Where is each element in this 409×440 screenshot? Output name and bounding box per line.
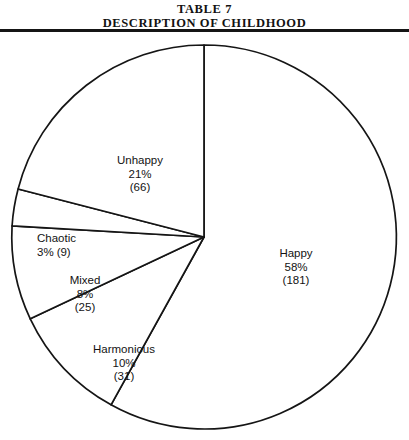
figure-title-block: TABLE 7 DESCRIPTION OF CHILDHOOD bbox=[0, 0, 409, 30]
slice-label-happy-count: (181) bbox=[256, 274, 336, 288]
slice-label-unhappy: Unhappy 21% (66) bbox=[96, 154, 184, 195]
slice-label-unhappy-name: Unhappy bbox=[96, 154, 184, 168]
slice-label-happy-name: Happy bbox=[256, 247, 336, 261]
slice-label-chaotic-name: Chaotic bbox=[37, 232, 133, 246]
slice-label-unhappy-pct: 21% bbox=[96, 168, 184, 182]
slice-label-chaotic-count: (9) bbox=[57, 246, 71, 258]
slice-label-happy-pct: 58% bbox=[256, 261, 336, 275]
slice-label-mixed-name: Mixed bbox=[42, 274, 128, 288]
slice-label-unhappy-count: (66) bbox=[96, 181, 184, 195]
slice-label-harmonious-name: Harmonious bbox=[72, 343, 176, 357]
table-number: TABLE 7 bbox=[0, 0, 409, 16]
title-divider bbox=[0, 29, 409, 32]
slice-label-chaotic: Chaotic 3%(9) bbox=[37, 232, 133, 259]
slice-label-harmonious-count: (31) bbox=[72, 370, 176, 384]
slice-label-mixed: Mixed 8% (25) bbox=[42, 274, 128, 315]
slice-label-harmonious-pct: 10% bbox=[72, 357, 176, 371]
slice-label-mixed-pct: 8% bbox=[42, 288, 128, 302]
slice-label-harmonious: Harmonious 10% (31) bbox=[72, 343, 176, 384]
slice-label-happy: Happy 58% (181) bbox=[256, 247, 336, 288]
slice-label-mixed-count: (25) bbox=[42, 301, 128, 315]
pie-chart: Unhappy 21% (66) Chaotic 3%(9) Mixed 8% … bbox=[0, 33, 409, 440]
slice-label-chaotic-pct: 3% bbox=[37, 246, 54, 258]
page-title: DESCRIPTION OF CHILDHOOD bbox=[0, 16, 409, 30]
table-7-figure: TABLE 7 DESCRIPTION OF CHILDHOOD Unhappy… bbox=[0, 0, 409, 440]
